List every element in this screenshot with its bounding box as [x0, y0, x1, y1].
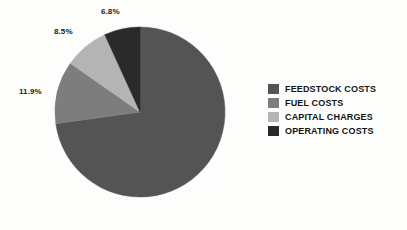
legend-swatch-icon: [268, 112, 279, 122]
legend-swatch-icon: [268, 126, 279, 136]
legend-item-label: CAPITAL CHARGES: [285, 112, 373, 122]
legend-item-capital-charges[interactable]: CAPITAL CHARGES: [268, 110, 404, 124]
chart-legend: FEEDSTOCK COSTS FUEL COSTS CAPITAL CHARG…: [268, 82, 404, 138]
slice-value-operating: 6.8%: [101, 7, 120, 16]
slice-value-capital: 8.5%: [54, 27, 73, 36]
legend-item-feedstock-costs[interactable]: FEEDSTOCK COSTS: [268, 82, 404, 96]
legend-swatch-icon: [268, 98, 279, 108]
pie-plot-area: 72.8% 11.9% 8.5% 6.8%: [0, 0, 250, 230]
pie-graphic: [0, 0, 250, 230]
slice-value-fuel: 11.9%: [19, 87, 42, 96]
pie-chart: 72.8% 11.9% 8.5% 6.8% FEEDSTOCK COSTS FU…: [0, 0, 407, 230]
legend-item-label: FUEL COSTS: [285, 98, 343, 108]
slice-value-feedstock: 72.8%: [196, 176, 219, 185]
legend-item-operating-costs[interactable]: OPERATING COSTS: [268, 124, 404, 138]
legend-swatch-icon: [268, 84, 279, 94]
legend-item-fuel-costs[interactable]: FUEL COSTS: [268, 96, 404, 110]
pie-slices: [55, 27, 225, 197]
legend-item-label: OPERATING COSTS: [285, 126, 374, 136]
legend-item-label: FEEDSTOCK COSTS: [285, 84, 376, 94]
